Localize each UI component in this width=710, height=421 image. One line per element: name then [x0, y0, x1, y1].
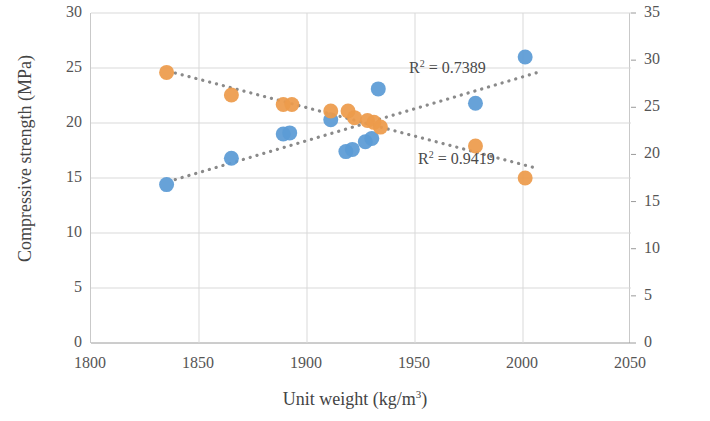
y-axis-right-tick-label: 30 [644, 50, 690, 68]
x-axis-title-tail: ) [421, 389, 427, 409]
r-squared-label-orange: R2 = 0.9419 [418, 149, 495, 168]
data-point [284, 97, 299, 112]
y-axis-left-tick-label: 5 [36, 278, 82, 296]
y-axis-right-tick-label: 35 [644, 3, 690, 21]
y-axis-left-title: Compressive strength (MPa) [15, 0, 36, 324]
r-squared-label-blue: R2 = 0.7389 [409, 58, 486, 77]
chart-figure: Compressive strength (MPa) Voids content… [0, 0, 710, 421]
data-point [323, 104, 338, 119]
x-axis-tick-label: 2050 [590, 354, 670, 372]
plot-canvas [91, 13, 631, 343]
x-axis-title-base: Unit weight (kg/m [283, 389, 416, 409]
data-point [224, 151, 239, 166]
y-axis-right-tick-label: 5 [644, 286, 690, 304]
y-axis-right-tick-label: 25 [644, 97, 690, 115]
data-point [282, 125, 297, 140]
data-point [518, 50, 533, 65]
x-axis-tick-label: 1950 [374, 354, 454, 372]
x-axis-tick-label: 2000 [482, 354, 562, 372]
y-axis-right-tick-label: 0 [644, 333, 690, 351]
y-axis-left-tick-label: 10 [36, 223, 82, 241]
data-point [345, 142, 360, 157]
data-point [518, 171, 533, 186]
x-axis-tick-label: 1850 [158, 354, 238, 372]
data-point [373, 120, 388, 135]
gridlines [91, 13, 631, 343]
data-point [159, 177, 174, 192]
y-axis-left-tick-label: 15 [36, 168, 82, 186]
plot-area [90, 13, 630, 343]
y-axis-right-tick-label: 20 [644, 144, 690, 162]
y-axis-left-tick-label: 25 [36, 58, 82, 76]
x-axis-tick-label: 1800 [50, 354, 130, 372]
data-point [371, 81, 386, 96]
y-axis-right-tick-label: 15 [644, 192, 690, 210]
y-axis-right-tick-label: 10 [644, 239, 690, 257]
data-point [468, 96, 483, 111]
y-axis-left-tick-label: 20 [36, 113, 82, 131]
right-axis-tickmarks [631, 13, 636, 343]
data-point [224, 88, 239, 103]
y-axis-left-tick-label: 0 [36, 333, 82, 351]
data-point [347, 110, 362, 125]
data-point [159, 65, 174, 80]
y-axis-left-tick-label: 30 [36, 3, 82, 21]
x-axis-title: Unit weight (kg/m3) [0, 388, 710, 410]
x-axis-tick-label: 1900 [266, 354, 346, 372]
